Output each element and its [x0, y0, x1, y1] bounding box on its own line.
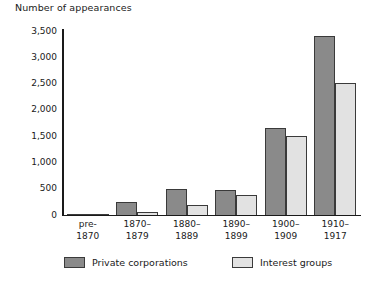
- legend-swatch-icon: [64, 257, 85, 268]
- bar[interactable]: [286, 136, 307, 215]
- bar[interactable]: [166, 189, 187, 215]
- legend-item-label: Interest groups: [260, 257, 332, 268]
- y-axis-tick-label: 1,500: [31, 132, 57, 141]
- y-axis-tick-label: 2,000: [31, 105, 57, 114]
- y-axis-tick-label: 2,500: [31, 79, 57, 88]
- bar-group: [113, 31, 163, 215]
- bar-group: [311, 31, 361, 215]
- legend-item-interest-groups[interactable]: Interest groups: [232, 257, 332, 268]
- x-axis-tick-label: 1870– 1879: [113, 219, 163, 242]
- x-axis-tick-label: 1880– 1889: [162, 219, 212, 242]
- bars-layer: [63, 31, 360, 215]
- bar-group: [212, 31, 262, 215]
- bar-group: [63, 31, 113, 215]
- bar[interactable]: [236, 195, 257, 215]
- bar[interactable]: [314, 36, 335, 215]
- legend-item-private-corporations[interactable]: Private corporations: [64, 257, 188, 268]
- x-axis-tick-labels: pre- 18701870– 18791880– 18891890– 18991…: [63, 219, 360, 251]
- x-axis-tick-label: pre- 1870: [63, 219, 113, 242]
- bar[interactable]: [187, 205, 208, 216]
- bar[interactable]: [265, 128, 286, 215]
- bar[interactable]: [116, 202, 137, 215]
- y-axis-tick-label: 500: [40, 184, 57, 193]
- bar[interactable]: [215, 190, 236, 215]
- y-axis-tick-label: 3,000: [31, 53, 57, 62]
- bar[interactable]: [67, 214, 88, 215]
- x-axis-tick-label: 1910– 1917: [311, 219, 361, 242]
- bar[interactable]: [137, 212, 158, 215]
- bar[interactable]: [88, 214, 109, 215]
- legend-item-label: Private corporations: [92, 257, 188, 268]
- chart-legend: Private corporations Interest groups: [63, 257, 363, 277]
- legend-swatch-icon: [232, 257, 253, 268]
- bar-group: [261, 31, 311, 215]
- bar-group: [162, 31, 212, 215]
- y-axis-tick-label: 3,500: [31, 27, 57, 36]
- x-axis-tick-label: 1890– 1899: [212, 219, 262, 242]
- bar[interactable]: [335, 83, 356, 215]
- y-axis-tick-label: 0: [51, 211, 57, 220]
- y-axis-tick-label: 1,000: [31, 158, 57, 167]
- y-axis-tick-labels: 05001,0001,5002,0002,5003,0003,500: [0, 0, 57, 285]
- x-axis-tick-label: 1900– 1909: [261, 219, 311, 242]
